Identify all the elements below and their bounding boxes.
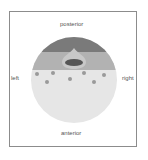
left-label: left <box>11 75 19 82</box>
right-label: right <box>122 75 134 82</box>
dot-marker <box>45 80 49 84</box>
posterior-label: posterior <box>60 21 83 28</box>
dot-marker <box>82 71 86 75</box>
anterior-region <box>31 80 117 124</box>
dot-marker <box>68 77 72 81</box>
dot-marker <box>35 72 39 76</box>
central-oval <box>65 59 83 66</box>
anterior-label: anterior <box>61 130 81 137</box>
dot-marker <box>102 73 106 77</box>
dot-marker <box>92 80 96 84</box>
dot-marker <box>51 71 55 75</box>
